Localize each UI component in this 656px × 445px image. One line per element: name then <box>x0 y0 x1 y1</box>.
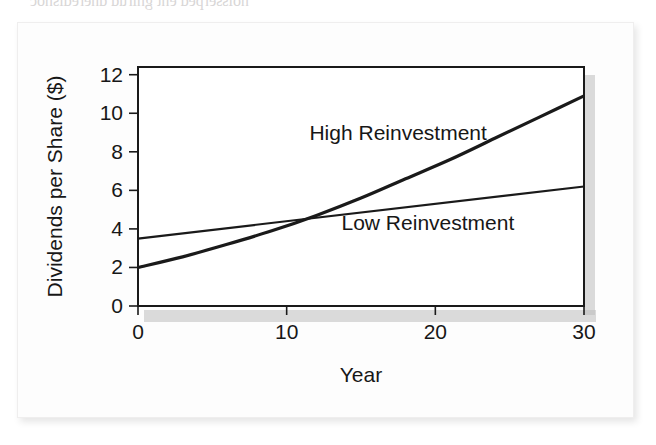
y-tick-label: 8 <box>111 140 123 163</box>
x-tick-label: 30 <box>572 320 595 343</box>
y-axis-tick-labels: 024681012 <box>100 63 124 317</box>
x-axis-title: Year <box>340 363 382 386</box>
plot-frame-shadow-bottom <box>144 310 596 322</box>
x-axis-tick-labels: 0102030 <box>132 320 596 343</box>
y-axis-ticks <box>129 75 138 306</box>
x-tick-label: 20 <box>424 320 447 343</box>
x-tick-label: 0 <box>132 320 144 343</box>
series-label-high-reinvestment: High Reinvestment <box>309 121 487 144</box>
x-tick-label: 10 <box>275 320 298 343</box>
figure-card: 024681012 0102030 High Reinvestment Low … <box>17 22 634 418</box>
y-tick-label: 6 <box>111 178 123 201</box>
chart-plot-area: 024681012 0102030 High Reinvestment Low … <box>18 23 635 419</box>
plot-frame-shadow-right <box>584 75 595 315</box>
y-tick-label: 12 <box>100 63 123 86</box>
scanned-page-background: noisserped eht gnirud dneredisnoc divide… <box>0 0 656 445</box>
y-tick-label: 0 <box>111 294 123 317</box>
bleed-through-top-text: noisserped eht gnirud dneredisnoc <box>30 0 249 10</box>
y-tick-label: 2 <box>111 255 123 278</box>
y-tick-label: 4 <box>111 217 123 240</box>
y-tick-label: 10 <box>100 101 123 124</box>
y-axis-title: Dividends per Share ($) <box>43 76 66 298</box>
series-label-low-reinvestment: Low Reinvestment <box>342 211 515 234</box>
plot-frame <box>138 67 584 306</box>
dividends-per-share-line-chart: 024681012 0102030 High Reinvestment Low … <box>18 23 635 419</box>
